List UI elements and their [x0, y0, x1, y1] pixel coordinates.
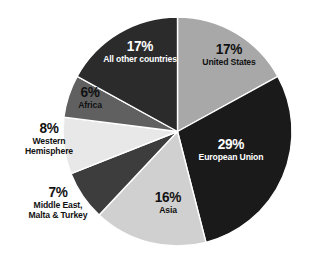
- slice-name-all-other-countries: All other countries: [90, 54, 191, 64]
- slice-label-middle-east: 7% Middle East, Malta & Turkey: [0, 184, 116, 220]
- slice-percent-asia: 16%: [136, 189, 199, 205]
- slice-label-all-other-countries: 17% All other countries: [84, 38, 196, 64]
- slice-percent-western-hemisphere: 8%: [8, 120, 91, 136]
- slice-name-asia: Asia: [136, 205, 201, 215]
- slice-percent-united-states: 17%: [187, 41, 271, 57]
- slice-name-middle-east: Middle East, Malta & Turkey: [6, 200, 110, 220]
- pie-chart: 17% United States 29% European Union 16%…: [0, 0, 319, 263]
- slice-percent-all-other-countries: 17%: [91, 38, 190, 54]
- slice-label-africa: 6% Africa: [55, 84, 125, 110]
- slice-percent-european-union: 29%: [184, 136, 277, 152]
- slice-percent-middle-east: 7%: [7, 184, 109, 200]
- slice-label-european-union: 29% European Union: [178, 136, 284, 162]
- slice-name-european-union: European Union: [183, 152, 278, 162]
- slice-label-asia: 16% Asia: [132, 189, 204, 215]
- slice-name-western-hemisphere: Western Hemisphere: [7, 136, 92, 156]
- slice-label-western-hemisphere: 8% Western Hemisphere: [2, 120, 96, 156]
- slice-name-africa: Africa: [59, 100, 122, 110]
- slice-name-united-states: United States: [186, 57, 272, 67]
- slice-percent-africa: 6%: [59, 84, 121, 100]
